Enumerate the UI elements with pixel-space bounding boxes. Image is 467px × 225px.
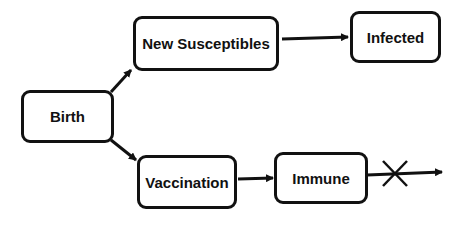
node-label: Immune (292, 170, 350, 187)
arrow-birth-to-vaccination (111, 140, 136, 160)
node-birth: Birth (21, 90, 114, 143)
node-infected: Infected (350, 11, 441, 63)
node-label: Vaccination (145, 174, 228, 191)
node-vaccination: Vaccination (137, 155, 237, 209)
node-label: New Susceptibles (142, 35, 270, 52)
arrow-birth-to-new-susceptibles (111, 70, 131, 92)
node-label: Infected (367, 29, 425, 46)
node-immune: Immune (274, 152, 368, 204)
arrow-immune-blocked (367, 172, 442, 175)
arrow-new-susceptibles-to-infected (282, 37, 348, 39)
node-label: Birth (50, 108, 85, 125)
arrow-vaccination-to-immune (238, 178, 273, 179)
node-new-susceptibles: New Susceptibles (133, 16, 279, 71)
